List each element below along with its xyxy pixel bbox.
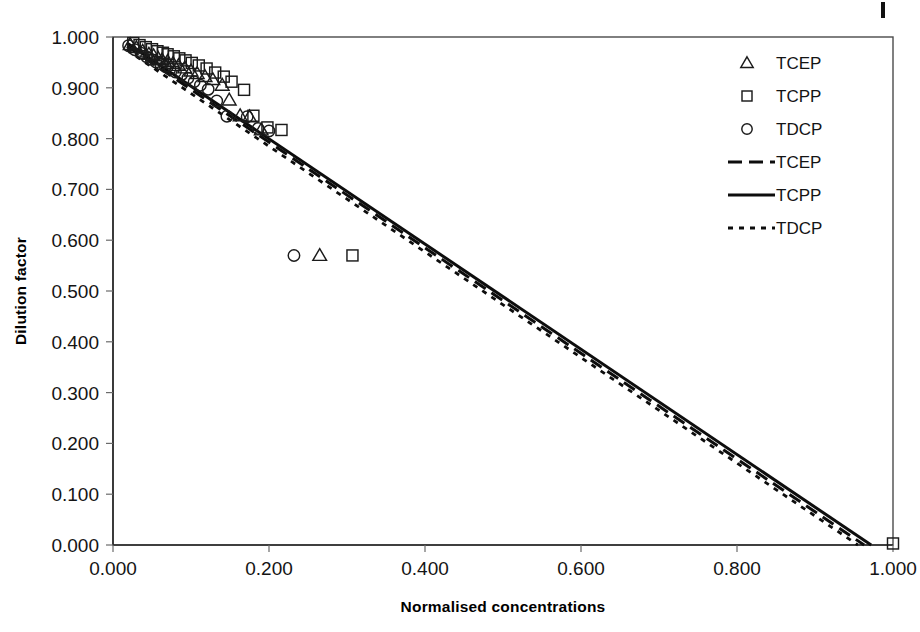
x-tick-label: 0.800 [713,558,761,579]
legend-label: TCPP [776,186,821,205]
y-tick-label: 0.500 [51,281,99,302]
y-tick-label: 0.300 [51,383,99,404]
legend-label: TCPP [776,87,821,106]
y-tick-label: 0.000 [51,535,99,556]
x-tick-label: 0.600 [557,558,605,579]
y-tick-label: 0.800 [51,129,99,150]
legend-label: TDCP [776,219,822,238]
y-tick-label: 1.000 [51,27,99,48]
y-tick-label: 0.100 [51,484,99,505]
x-tick-label: 1.000 [869,558,917,579]
x-tick-label: 0.000 [89,558,137,579]
chart-figure: 0.0000.1000.2000.3000.4000.5000.6000.700… [0,0,920,632]
y-tick-label: 0.400 [51,332,99,353]
legend-label: TDCP [776,120,822,139]
scatter-plot-svg: 0.0000.1000.2000.3000.4000.5000.6000.700… [0,0,920,632]
x-axis-title: Normalised concentrations [401,598,606,615]
y-axis-title: Dilution factor [12,237,29,345]
y-tick-label: 0.900 [51,78,99,99]
y-tick-label: 0.700 [51,179,99,200]
legend-label: TCEP [776,54,821,73]
x-tick-label: 0.400 [401,558,449,579]
legend-label: TCEP [776,153,821,172]
y-tick-label: 0.200 [51,433,99,454]
y-tick-label: 0.600 [51,230,99,251]
x-tick-label: 0.200 [245,558,293,579]
